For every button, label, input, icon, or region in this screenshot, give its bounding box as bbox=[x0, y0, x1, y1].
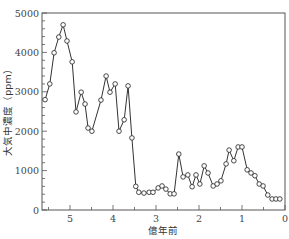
data-point bbox=[232, 158, 237, 163]
data-point bbox=[142, 191, 147, 196]
data-point bbox=[52, 50, 57, 55]
data-point bbox=[74, 110, 79, 115]
x-tick-label: 2 bbox=[196, 213, 202, 224]
x-tick-label: 0 bbox=[282, 213, 288, 224]
y-tick-label: 5000 bbox=[15, 8, 39, 19]
data-point bbox=[176, 152, 181, 157]
data-point bbox=[113, 82, 118, 87]
x-tick-label: 4 bbox=[110, 213, 116, 224]
data-line bbox=[45, 25, 280, 199]
data-point bbox=[253, 173, 258, 178]
data-point bbox=[99, 98, 104, 103]
data-point bbox=[65, 39, 70, 44]
data-point bbox=[186, 173, 191, 178]
data-point bbox=[151, 190, 156, 195]
data-point bbox=[104, 74, 109, 79]
x-axis-title: 億年前 bbox=[148, 225, 178, 236]
data-point bbox=[122, 117, 127, 122]
data-point bbox=[190, 184, 195, 189]
data-point bbox=[278, 197, 283, 202]
data-point bbox=[240, 145, 245, 150]
y-tick-label: 2000 bbox=[15, 126, 39, 137]
y-tick-label: 0 bbox=[33, 205, 39, 216]
co2-concentration-chart: 010002000300040005000 012345 億年前 大気中濃度（p… bbox=[0, 0, 288, 239]
data-point bbox=[47, 82, 52, 87]
data-point bbox=[194, 173, 199, 178]
data-point bbox=[137, 190, 142, 195]
x-tick-label: 5 bbox=[67, 213, 73, 224]
data-point bbox=[70, 60, 75, 65]
data-point bbox=[43, 97, 48, 102]
data-point bbox=[108, 90, 113, 95]
data-point bbox=[90, 129, 95, 134]
data-point bbox=[198, 182, 203, 187]
data-point bbox=[227, 148, 232, 153]
y-tick-label: 3000 bbox=[15, 86, 39, 97]
data-point bbox=[61, 23, 66, 28]
x-tick-label: 1 bbox=[239, 213, 245, 224]
data-point bbox=[266, 193, 271, 198]
data-point bbox=[206, 171, 211, 176]
x-tick-label: 3 bbox=[153, 213, 159, 224]
x-axis: 012345 bbox=[49, 205, 289, 224]
data-point bbox=[224, 162, 229, 167]
data-point bbox=[83, 102, 88, 107]
y-tick-label: 1000 bbox=[15, 165, 39, 176]
data-point bbox=[130, 136, 135, 141]
data-point bbox=[219, 179, 224, 184]
data-point bbox=[202, 164, 207, 169]
data-point bbox=[164, 187, 169, 192]
data-point bbox=[181, 175, 186, 180]
data-point bbox=[117, 129, 122, 134]
data-point bbox=[57, 35, 62, 40]
data-point bbox=[79, 90, 84, 95]
data-point bbox=[261, 184, 266, 189]
y-tick-label: 4000 bbox=[15, 47, 39, 58]
y-axis-title: 大気中濃度（ppm） bbox=[2, 64, 13, 155]
data-point bbox=[126, 84, 131, 89]
data-point bbox=[172, 192, 177, 197]
data-markers bbox=[43, 23, 282, 202]
data-point bbox=[133, 184, 138, 189]
